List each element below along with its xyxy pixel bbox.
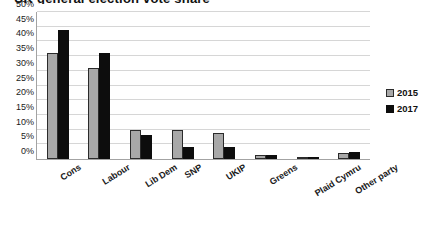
y-axis-tick-label: 35%	[2, 44, 34, 53]
y-axis-tick-label: 40%	[2, 29, 34, 38]
bar-2015	[213, 133, 224, 159]
bar-2017	[349, 152, 360, 159]
y-axis-tick-label: 30%	[2, 59, 34, 68]
y-axis-tick-label: 50%	[2, 0, 34, 9]
bar-2017	[308, 157, 319, 159]
bar-group	[204, 12, 246, 159]
plot-area	[36, 12, 370, 160]
x-axis-tick-label: UKIP	[225, 162, 249, 182]
legend-item-2017[interactable]: 2017	[386, 102, 442, 116]
bar-group	[162, 12, 204, 159]
x-axis-tick-label: Lib Dem	[143, 162, 178, 189]
x-axis-tick-label: Greens	[268, 162, 300, 187]
bar-group	[287, 12, 329, 159]
legend-label: 2017	[397, 104, 418, 114]
bar-2017	[266, 155, 277, 159]
x-axis: ConsLabourLib DemSNPUKIPGreensPlaid Cymr…	[36, 162, 370, 224]
y-axis-tick-label: 5%	[2, 132, 34, 141]
bar-2015	[297, 157, 308, 159]
y-axis-tick-label: 20%	[2, 88, 34, 97]
bar-group	[37, 12, 79, 159]
y-axis-tick-label: 15%	[2, 103, 34, 112]
bar-2015	[88, 68, 99, 159]
y-axis: 50%45%40%35%30%25%20%15%10%5%0%	[0, 12, 34, 160]
x-axis-tick-label: Labour	[101, 162, 132, 187]
y-axis-tick-label: 45%	[2, 15, 34, 24]
x-axis-tick-label: SNP	[183, 162, 204, 180]
bar-2017	[183, 147, 194, 159]
legend-label: 2015	[397, 88, 418, 98]
bar-group	[245, 12, 287, 159]
chart-title: UK general election vote share	[14, 0, 210, 4]
bar-2015	[172, 130, 183, 159]
bar-2017	[99, 53, 110, 159]
legend-swatch-2015-icon	[386, 89, 394, 97]
bar-2015	[47, 53, 58, 159]
y-axis-tick-label: 10%	[2, 118, 34, 127]
bar-chart: UK general election vote share 50%45%40%…	[0, 0, 444, 228]
legend-swatch-2017-icon	[386, 105, 394, 113]
bar-2017	[58, 30, 69, 159]
bar-2015	[130, 130, 141, 159]
bar-group	[120, 12, 162, 159]
bar-group	[79, 12, 121, 159]
bar-group	[328, 12, 370, 159]
bar-2017	[141, 135, 152, 159]
y-axis-tick-label: 0%	[2, 147, 34, 156]
x-axis-tick-label: Cons	[58, 162, 82, 182]
bar-2017	[224, 147, 235, 159]
bar-2015	[255, 155, 266, 159]
y-axis-tick-label: 25%	[2, 74, 34, 83]
chart-legend: 20152017	[386, 86, 442, 118]
x-axis-tick-label: Plaid Cymru	[313, 162, 363, 198]
bar-2015	[338, 153, 349, 159]
legend-item-2015[interactable]: 2015	[386, 86, 442, 100]
